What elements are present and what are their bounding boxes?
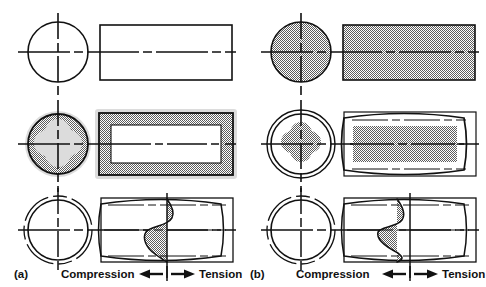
panel-label-a: (a) (14, 268, 28, 280)
tension-label: Tension (442, 268, 485, 280)
tension-label: Tension (199, 268, 242, 280)
compression-label: Compression (61, 268, 135, 280)
figure-root: (a) Compression Tension (0, 0, 486, 287)
panel-label-b: (b) (250, 268, 265, 280)
compression-label: Compression (296, 268, 370, 280)
diagram-svg: (a) Compression Tension (0, 0, 486, 287)
